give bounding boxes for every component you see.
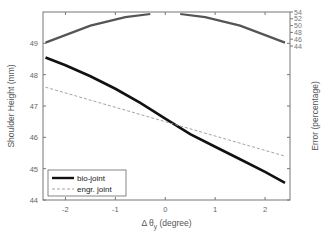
y-tick-label: 47 bbox=[30, 102, 38, 111]
error-line bbox=[180, 14, 285, 43]
x-tick-label: 0 bbox=[163, 205, 167, 214]
engr-joint-line bbox=[45, 87, 285, 156]
y-tick-label: 44 bbox=[30, 196, 38, 205]
y-tick-label: 48 bbox=[30, 71, 38, 80]
y-right-axis-label: Error (percentage) bbox=[310, 81, 320, 151]
plot-area: -2-1012444546474849444648505254bio-joint… bbox=[6, 9, 320, 232]
error-line bbox=[45, 14, 150, 43]
y-tick-label: 45 bbox=[30, 165, 38, 174]
y-right-tick-label: 52 bbox=[294, 15, 302, 22]
y-axis-label: Shoulder Height (mm) bbox=[6, 64, 16, 147]
x-tick-label: 2 bbox=[263, 205, 267, 214]
x-tick-label: -1 bbox=[112, 205, 119, 214]
y-right-tick-label: 48 bbox=[294, 29, 302, 36]
y-right-tick-label: 50 bbox=[294, 22, 302, 29]
legend-engr-joint-label: engr. joint bbox=[77, 185, 112, 194]
chart: -2-1012444546474849444648505254bio-joint… bbox=[0, 0, 326, 239]
y-right-tick-label: 44 bbox=[294, 43, 302, 50]
x-tick-label: -2 bbox=[62, 205, 69, 214]
y-tick-label: 49 bbox=[30, 39, 38, 48]
legend-bio-joint-label: bio-joint bbox=[77, 174, 106, 183]
y-tick-label: 46 bbox=[30, 133, 38, 142]
y-right-tick-label: 54 bbox=[294, 9, 302, 16]
y-right-tick-label: 46 bbox=[294, 36, 302, 43]
x-axis-label: Δ θy (degree) bbox=[141, 218, 191, 231]
x-tick-label: 1 bbox=[213, 205, 217, 214]
bio-joint-line bbox=[45, 57, 285, 182]
